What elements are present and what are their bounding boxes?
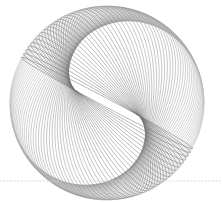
figure-canvas bbox=[0, 0, 222, 202]
ellipse-family-plot bbox=[0, 0, 222, 202]
plot-background bbox=[0, 0, 222, 202]
